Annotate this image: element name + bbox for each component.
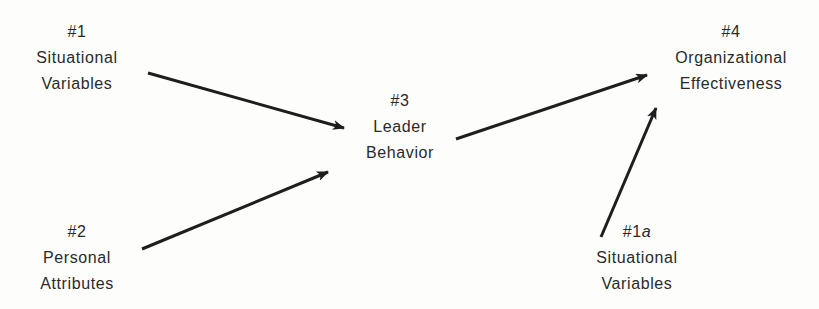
node-situational-variables-1a: #1a Situational Variables	[596, 219, 677, 297]
node-label-line: Attributes	[40, 271, 114, 297]
node-organizational-effectiveness: #4 Organizational Effectiveness	[675, 19, 787, 97]
arrow-n1a-to-n4	[601, 108, 656, 237]
node-label-line: Situational	[36, 45, 117, 71]
node-number-suffix: a	[642, 223, 652, 240]
node-number: #3	[366, 88, 434, 114]
node-label-line: Variables	[596, 271, 677, 297]
node-label-line: Leader	[366, 114, 434, 140]
node-leader-behavior: #3 Leader Behavior	[366, 88, 434, 166]
node-personal-attributes: #2 Personal Attributes	[40, 219, 114, 297]
node-number: #1a	[596, 219, 677, 245]
node-number-base: #1	[623, 223, 642, 240]
node-label-line: Effectiveness	[675, 71, 787, 97]
arrow-n1-to-n3	[148, 73, 344, 128]
node-label-line: Organizational	[675, 45, 787, 71]
arrow-n2-to-n3	[142, 172, 328, 249]
node-label-line: Behavior	[366, 140, 434, 166]
arrow-n3-to-n4	[456, 75, 647, 139]
node-number: #4	[675, 19, 787, 45]
node-number: #1	[36, 19, 117, 45]
node-label-line: Situational	[596, 245, 677, 271]
node-number: #2	[40, 219, 114, 245]
node-label-line: Variables	[36, 71, 117, 97]
node-label-line: Personal	[40, 245, 114, 271]
node-situational-variables: #1 Situational Variables	[36, 19, 117, 97]
